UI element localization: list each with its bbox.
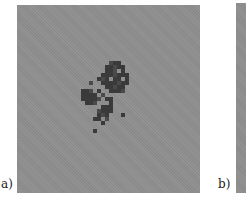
cluster-cell: [125, 81, 129, 85]
cluster-cell: [101, 121, 105, 125]
cluster-cell: [105, 117, 109, 121]
panel-b-grid: [236, 3, 246, 193]
cluster-cell: [89, 81, 93, 85]
cluster-cell: [97, 97, 101, 101]
panel-b-label: b): [218, 178, 230, 190]
cluster-cell: [121, 113, 125, 117]
panel-a-grid: [17, 5, 200, 193]
cluster-cell: [93, 129, 97, 133]
cluster-cell: [121, 89, 125, 93]
cluster-cell: [109, 109, 113, 113]
cluster-cell: [93, 101, 97, 105]
panel-a-label: a): [1, 178, 13, 190]
